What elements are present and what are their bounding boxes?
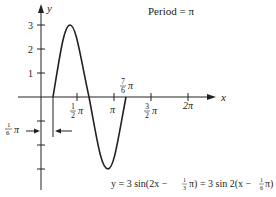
- x-axis-label: x: [220, 91, 226, 103]
- x-tick-label-half-pi: 1 2 π: [70, 102, 84, 120]
- annotation-seven-sixths-pi: 7 6 π: [120, 77, 134, 95]
- equation: y = 3 sin(2x − 1 3 π) = 3 sin 2(x − 1 6 …: [111, 177, 273, 191]
- x-tick-label-three-halves-pi: 3 2 π: [144, 102, 158, 120]
- y-tick-label-2: 2: [28, 44, 33, 55]
- x-axis-arrow-icon: [207, 94, 216, 100]
- y-tick-label-3: 3: [28, 20, 33, 31]
- svg-text:7: 7: [121, 77, 125, 86]
- y-axis-arrow-icon: [38, 4, 44, 13]
- svg-text:1: 1: [183, 177, 186, 183]
- svg-text:2: 2: [71, 111, 75, 120]
- svg-text:π: π: [78, 105, 84, 116]
- y-tick-label-1: 1: [28, 68, 33, 79]
- svg-text:3: 3: [183, 185, 186, 191]
- svg-text:6: 6: [121, 86, 125, 95]
- sine-graph: x y 3 2 1 1 2 π π 3 2 π 2π 7 6 π: [0, 0, 276, 197]
- svg-text:y = 3 sin(2x −: y = 3 sin(2x −: [111, 178, 168, 190]
- y-axis-label: y: [46, 2, 52, 14]
- svg-text:2: 2: [145, 111, 149, 120]
- arrow-right-icon: [34, 129, 40, 134]
- svg-text:π: π: [128, 80, 134, 91]
- svg-text:π: π: [14, 124, 20, 135]
- svg-text:3: 3: [145, 102, 149, 111]
- svg-text:1: 1: [7, 121, 11, 129]
- phase-shift-label: 1 6 π: [5, 121, 20, 137]
- svg-text:6: 6: [6, 129, 10, 137]
- svg-text:6: 6: [260, 185, 263, 191]
- x-tick-label-pi: π: [110, 104, 116, 115]
- svg-text:π: π: [152, 105, 158, 116]
- x-tick-label-2pi: 2π: [183, 100, 194, 111]
- svg-text:1: 1: [260, 177, 263, 183]
- chart-title: Period = π: [148, 5, 194, 17]
- svg-text:1: 1: [71, 102, 75, 111]
- arrow-left-icon: [55, 129, 61, 134]
- svg-text:π): π): [265, 178, 273, 190]
- svg-text:π) = 3 sin 2(x −: π) = 3 sin 2(x −: [189, 178, 252, 190]
